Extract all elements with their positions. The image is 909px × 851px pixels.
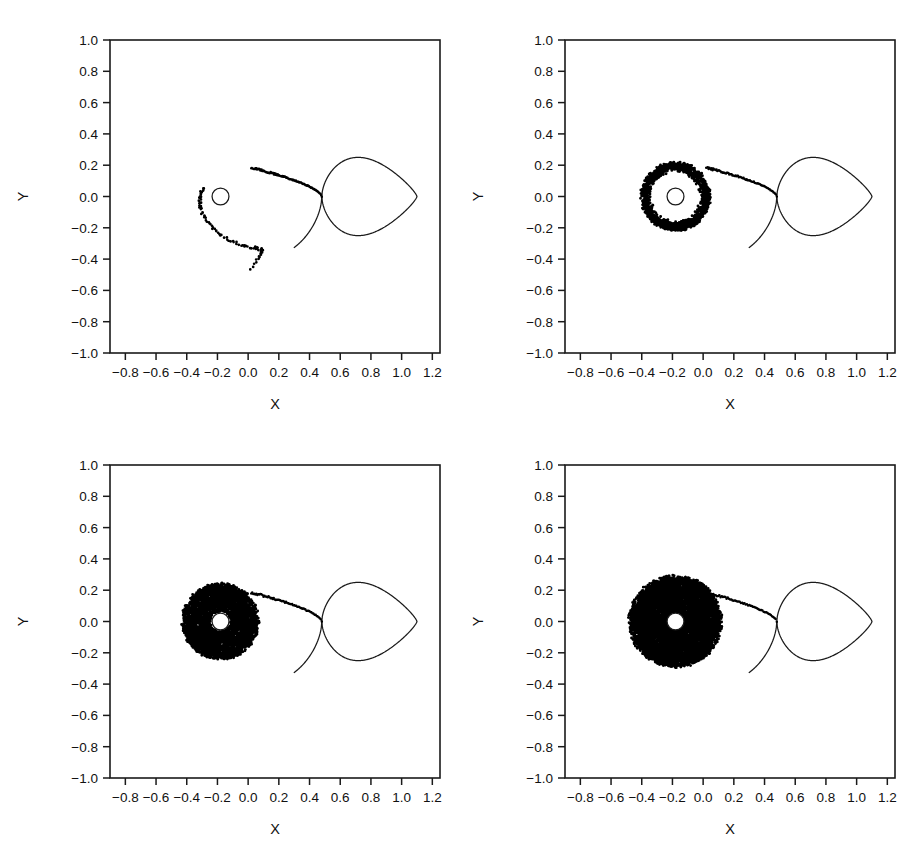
x-tick-label: 0.4 [755,365,774,380]
x-tick-label: 0.0 [239,365,258,380]
y-tick-label: −0.2 [71,221,98,236]
y-tick-label: 0.0 [79,190,98,205]
panel-bottom-right: −0.8−0.6−0.4−0.20.00.20.40.60.81.01.2−1.… [455,425,909,850]
x-tick-label: 0.4 [300,365,319,380]
y-tick-label: 1.0 [79,33,98,48]
y-tick-label: 1.0 [79,458,98,473]
x-tick-label: 1.0 [392,790,411,805]
primary-roche-lobe-lower-arc [749,197,777,248]
x-tick-label: 0.2 [724,365,743,380]
y-tick-label: 0.8 [534,64,553,79]
y-tick-label: 0.2 [79,158,98,173]
y-tick-label: −0.2 [71,646,98,661]
primary-roche-lobe-lower-arc [749,622,777,673]
y-tick-label: −1.0 [71,346,98,361]
x-tick-label: 0.2 [724,790,743,805]
panel-canvas: −0.8−0.6−0.4−0.20.00.20.40.60.81.01.2−1.… [455,0,909,425]
y-tick-label: 0.0 [534,615,553,630]
y-tick-label: 0.6 [534,521,553,536]
y-axis-title: Y [15,191,31,201]
x-tick-label: 0.4 [755,790,774,805]
y-tick-label: −1.0 [526,771,553,786]
x-tick-label: 0.0 [694,365,713,380]
x-tick-label: −0.4 [628,365,655,380]
x-tick-label: −0.2 [659,790,686,805]
x-tick-label: −0.6 [143,365,170,380]
x-tick-label: 0.8 [362,790,381,805]
x-axis-title: X [270,821,280,837]
x-tick-label: −0.6 [598,365,625,380]
y-axis-title: Y [470,616,486,626]
x-axis-title: X [270,396,280,412]
primary-roche-lobe-lower-arc [294,622,322,673]
plot-frame [565,465,895,778]
x-tick-label: 0.0 [239,790,258,805]
y-tick-label: −0.8 [71,315,98,330]
x-tick-label: −0.6 [143,790,170,805]
x-tick-label: −0.8 [567,790,594,805]
x-tick-label: −0.6 [598,790,625,805]
stream-particles [250,591,323,622]
y-tick-label: 0.4 [534,127,553,142]
y-tick-label: −0.6 [71,283,98,298]
y-tick-label: −0.6 [526,708,553,723]
x-tick-label: −0.4 [173,790,200,805]
stream-particles [705,166,778,198]
y-tick-label: 0.8 [534,489,553,504]
x-tick-label: 0.8 [817,790,836,805]
y-tick-label: −0.8 [526,315,553,330]
y-axis-title: Y [15,616,31,626]
plot-content [627,574,872,673]
axes-group: −0.8−0.6−0.4−0.20.00.20.40.60.81.01.2−1.… [15,33,442,412]
accretor-circle [212,188,229,205]
y-axis-title: Y [470,191,486,201]
donor-roche-lobe [322,582,417,660]
y-tick-label: −0.2 [526,646,553,661]
y-tick-label: −0.8 [71,740,98,755]
plot-content [180,582,417,673]
panel-canvas: −0.8−0.6−0.4−0.20.00.20.40.60.81.01.2−1.… [455,425,909,850]
y-tick-label: 0.4 [534,552,553,567]
accretor-circle [667,188,684,205]
ballistic-tail-particles [197,187,264,271]
x-tick-label: 1.0 [392,365,411,380]
y-tick-label: −0.8 [526,740,553,755]
x-tick-label: −0.4 [173,365,200,380]
y-tick-label: −0.4 [526,252,553,267]
y-tick-label: 0.2 [534,583,553,598]
y-tick-label: 0.4 [79,552,98,567]
y-tick-label: 0.2 [534,158,553,173]
x-tick-label: 0.8 [817,365,836,380]
x-axis-title: X [725,821,735,837]
y-tick-label: 1.0 [534,458,553,473]
y-tick-label: 0.4 [79,127,98,142]
donor-roche-lobe [777,582,872,660]
donor-roche-lobe [322,157,417,235]
x-tick-label: 0.6 [786,365,805,380]
stream-particles [250,167,323,198]
x-tick-label: 0.2 [269,790,288,805]
y-tick-label: −0.4 [526,677,553,692]
x-tick-label: 0.6 [786,790,805,805]
panel-top-left: −0.8−0.6−0.4−0.20.00.20.40.60.81.01.2−1.… [0,0,454,425]
panel-canvas: −0.8−0.6−0.4−0.20.00.20.40.60.81.01.2−1.… [0,425,454,850]
donor-roche-lobe [777,157,872,235]
y-tick-label: −0.6 [71,708,98,723]
x-tick-label: 0.2 [269,365,288,380]
figure-root: −0.8−0.6−0.4−0.20.00.20.40.60.81.01.2−1.… [0,0,909,851]
accretor-circle [667,613,684,630]
y-tick-label: 0.6 [534,96,553,111]
plot-frame [565,40,895,353]
panel-top-right: −0.8−0.6−0.4−0.20.00.20.40.60.81.01.2−1.… [455,0,909,425]
x-tick-label: 1.2 [423,365,442,380]
y-tick-label: −1.0 [71,771,98,786]
x-tick-label: 0.6 [331,790,350,805]
x-tick-label: 0.4 [300,790,319,805]
y-tick-label: 0.6 [79,521,98,536]
plot-content [639,157,872,247]
y-tick-label: −0.6 [526,283,553,298]
x-tick-label: −0.2 [659,365,686,380]
plot-frame [110,40,440,353]
primary-roche-lobe-lower-arc [294,197,322,248]
panel-bottom-left: −0.8−0.6−0.4−0.20.00.20.40.60.81.01.2−1.… [0,425,454,850]
